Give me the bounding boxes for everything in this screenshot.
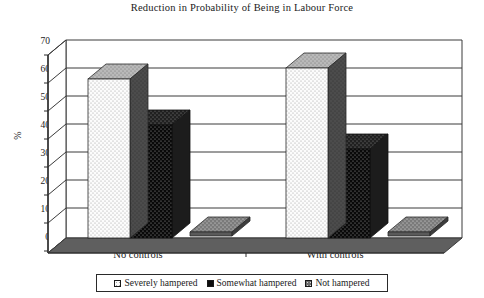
bar-no-controls-severely-hampered <box>88 64 148 238</box>
severely-hampered-swatch <box>114 280 121 287</box>
legend-item-somewhat-hampered: Somewhat hampered <box>207 278 297 288</box>
chart-legend: Severely hampered Somewhat hampered Not … <box>96 274 388 292</box>
legend-item-not-hampered: Not hampered <box>305 278 369 288</box>
chart-figure: Reduction in Probability of Being in Lab… <box>0 0 484 298</box>
chart-floor <box>48 238 462 253</box>
legend-item-severely-hampered: Severely hampered <box>114 278 197 288</box>
somewhat-hampered-swatch <box>207 280 214 287</box>
legend-label-somewhat-hampered: Somewhat hampered <box>217 278 297 288</box>
bar-with-controls-severely-hampered <box>286 53 346 238</box>
not-hampered-swatch <box>305 280 312 287</box>
x-axis <box>48 253 444 257</box>
legend-label-severely-hampered: Severely hampered <box>124 278 197 288</box>
legend-label-not-hampered: Not hampered <box>315 278 369 288</box>
y-axis <box>44 55 48 253</box>
plot-area <box>0 0 484 298</box>
